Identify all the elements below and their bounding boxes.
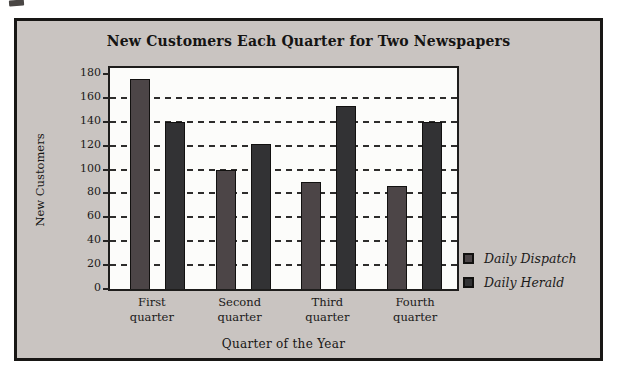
y-axis-title: New Customers — [33, 120, 47, 240]
bar-daily-herald-second-quarter — [251, 144, 271, 289]
legend-label-daily-herald: Daily Herald — [484, 275, 564, 290]
bar-group-second-quarter — [201, 68, 287, 289]
scanned-page: New Customers Each Quarter for Two Newsp… — [0, 0, 622, 378]
plot-area — [108, 66, 459, 291]
bar-daily-dispatch-second-quarter — [216, 170, 236, 289]
legend: Daily Dispatch Daily Herald — [463, 251, 576, 290]
y-tick-mark-100 — [103, 169, 109, 171]
bar-daily-herald-third-quarter — [336, 106, 356, 289]
y-tick-label-140: 140 — [80, 113, 101, 126]
legend-swatch-daily-dispatch-icon — [463, 253, 474, 264]
y-tick-mark-180 — [103, 73, 109, 75]
y-tick-mark-40 — [103, 240, 109, 242]
y-tick-label-0: 0 — [94, 281, 101, 294]
bar-daily-dispatch-third-quarter — [301, 182, 321, 290]
bar-daily-herald-first-quarter — [165, 122, 185, 289]
y-tick-mark-80 — [103, 192, 109, 194]
bar-group-fourth-quarter — [372, 68, 458, 289]
scan-artifact — [9, 0, 24, 7]
legend-item-daily-dispatch: Daily Dispatch — [463, 251, 576, 266]
chart-frame: New Customers Each Quarter for Two Newsp… — [14, 18, 603, 361]
y-tick-label-180: 180 — [80, 65, 101, 78]
x-axis-ticks: First quarterSecond quarterThird quarter… — [108, 295, 459, 325]
y-tick-mark-60 — [103, 216, 109, 218]
bar-daily-herald-fourth-quarter — [422, 122, 442, 289]
y-tick-label-40: 40 — [87, 233, 101, 246]
y-tick-mark-120 — [103, 145, 109, 147]
y-axis-ticks: 020406080100120140160180 — [57, 66, 101, 287]
y-tick-mark-0 — [103, 288, 109, 290]
y-tick-mark-160 — [103, 97, 109, 99]
bar-groups — [110, 68, 457, 289]
y-tick-label-100: 100 — [80, 161, 101, 174]
y-tick-mark-20 — [103, 264, 109, 266]
legend-label-daily-dispatch: Daily Dispatch — [484, 251, 576, 266]
y-tick-label-160: 160 — [80, 89, 101, 102]
y-tick-mark-140 — [103, 121, 109, 123]
legend-swatch-daily-herald-icon — [463, 277, 474, 288]
x-axis-title: Quarter of the Year — [108, 337, 459, 351]
bar-daily-dispatch-first-quarter — [130, 79, 150, 289]
bar-group-third-quarter — [286, 68, 372, 289]
bar-daily-dispatch-fourth-quarter — [387, 186, 407, 289]
y-tick-label-20: 20 — [87, 257, 101, 270]
y-tick-label-80: 80 — [87, 185, 101, 198]
x-tick-label-second-quarter: Second quarter — [196, 295, 284, 325]
legend-item-daily-herald: Daily Herald — [463, 275, 576, 290]
bar-group-first-quarter — [115, 68, 201, 289]
chart-title: New Customers Each Quarter for Two Newsp… — [17, 33, 600, 49]
y-tick-label-60: 60 — [87, 209, 101, 222]
x-tick-label-first-quarter: First quarter — [108, 295, 196, 325]
x-tick-label-third-quarter: Third quarter — [284, 295, 372, 325]
y-tick-label-120: 120 — [80, 137, 101, 150]
x-tick-label-fourth-quarter: Fourth quarter — [371, 295, 459, 325]
